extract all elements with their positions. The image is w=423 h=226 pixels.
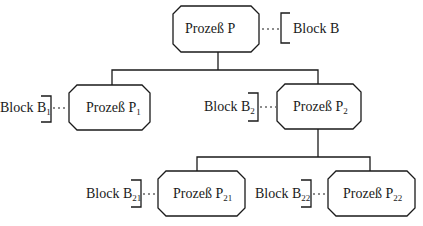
block-text: Block B — [0, 100, 46, 115]
node-subscript: 2 — [343, 106, 348, 116]
block-label-b: Block B — [293, 21, 339, 41]
block-text: Block B — [86, 186, 132, 201]
block-label-b22: Block B22 — [255, 186, 310, 206]
node-label-p22: Prozeß P22 — [343, 186, 402, 206]
node-label-p21: Prozeß P21 — [173, 186, 232, 206]
block-subscript: 1 — [46, 107, 51, 117]
block-label-b21: Block B21 — [86, 186, 141, 206]
node-text: Prozeß P — [293, 99, 343, 114]
connector-level2-bar — [197, 157, 370, 171]
block-subscript: 2 — [250, 106, 255, 116]
process-tree-diagram: Prozeß P Prozeß P1 Prozeß P2 Prozeß P21 … — [0, 0, 423, 226]
block-subscript: 22 — [301, 193, 310, 203]
node-subscript: 21 — [223, 193, 232, 203]
connector-level1-bar — [112, 70, 318, 85]
node-label-p: Prozeß P — [185, 21, 235, 41]
node-text: Prozeß P — [173, 186, 223, 201]
node-text: Prozeß P — [185, 21, 235, 36]
block-text: Block B — [293, 21, 339, 36]
node-text: Prozeß P — [86, 100, 136, 115]
block-text: Block B — [204, 99, 250, 114]
node-subscript: 1 — [136, 107, 141, 117]
node-text: Prozeß P — [343, 186, 393, 201]
node-label-p2: Prozeß P2 — [293, 99, 348, 119]
node-subscript: 22 — [393, 193, 402, 203]
block-text: Block B — [255, 186, 301, 201]
block-label-b1: Block B1 — [0, 100, 51, 120]
block-label-b2: Block B2 — [204, 99, 255, 119]
bracket-block-b — [281, 13, 290, 43]
node-label-p1: Prozeß P1 — [86, 100, 141, 120]
block-subscript: 21 — [132, 193, 141, 203]
